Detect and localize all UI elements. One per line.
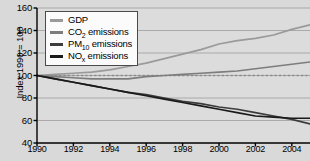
legend-label: GDP <box>68 15 88 25</box>
chart-container: Index 1990 = 100 160140120100806040 1990… <box>0 0 310 161</box>
legend-label: PM10 emissions <box>68 39 132 49</box>
chart-legend: GDPCO2 emissionsPM10 emissionsNOx emissi… <box>45 11 138 66</box>
legend-swatch <box>50 55 63 58</box>
legend-swatch <box>50 31 63 34</box>
legend-item: PM10 emissions <box>50 38 132 50</box>
legend-item: GDP <box>50 14 132 26</box>
legend-label: CO2 emissions <box>68 27 128 37</box>
legend-swatch <box>50 43 63 46</box>
legend-item: NOx emissions <box>50 50 132 62</box>
legend-item: CO2 emissions <box>50 26 132 38</box>
legend-swatch <box>50 19 63 22</box>
legend-label: NOx emissions <box>68 51 128 61</box>
